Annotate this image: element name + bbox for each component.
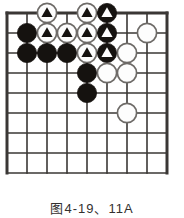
black-stone-marked-c5r1[interactable] <box>97 23 116 42</box>
black-stone-c1r1[interactable] <box>17 23 36 42</box>
white-stone-disc <box>137 23 156 42</box>
black-stone-disc <box>57 43 76 62</box>
black-stone-c3r2[interactable] <box>57 43 76 62</box>
white-stone-marked-c4r2[interactable] <box>77 43 96 62</box>
black-stone-marked-c5r2[interactable] <box>97 43 116 62</box>
black-stone-c4r4[interactable] <box>77 83 96 102</box>
white-stone-c7r1[interactable] <box>137 23 156 42</box>
black-stone-disc <box>37 43 56 62</box>
go-problem-figure: 图4-19、11A <box>0 0 184 218</box>
white-stone-disc <box>97 63 116 82</box>
black-stone-c1r2[interactable] <box>17 43 36 62</box>
black-stone-disc <box>17 23 36 42</box>
white-stone-disc <box>117 103 136 122</box>
white-stone-disc <box>117 43 136 62</box>
black-stone-c2r2[interactable] <box>37 43 56 62</box>
black-stone-disc <box>77 63 96 82</box>
white-stone-marked-c2r1[interactable] <box>37 23 56 42</box>
black-stone-disc <box>77 83 96 102</box>
go-board-canvas[interactable] <box>0 0 184 196</box>
black-stone-disc <box>17 43 36 62</box>
white-stone-marked-c4r0[interactable] <box>77 3 96 22</box>
white-stone-marked-c4r1[interactable] <box>77 23 96 42</box>
white-stone-c6r5[interactable] <box>117 103 136 122</box>
black-stone-c4r3[interactable] <box>77 63 96 82</box>
black-stone-marked-c5r0[interactable] <box>97 3 116 22</box>
white-stone-disc <box>117 63 136 82</box>
go-board[interactable] <box>0 0 184 196</box>
white-stone-marked-c3r1[interactable] <box>57 23 76 42</box>
white-stone-c6r3[interactable] <box>117 63 136 82</box>
figure-caption: 图4-19、11A <box>0 200 184 218</box>
white-stone-c6r2[interactable] <box>117 43 136 62</box>
white-stone-marked-c2r0[interactable] <box>37 3 56 22</box>
white-stone-c5r3[interactable] <box>97 63 116 82</box>
